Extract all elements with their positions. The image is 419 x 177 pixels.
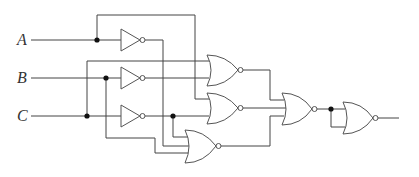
input-label-b: B [17, 69, 27, 86]
wire-nor1-to-nor4 [241, 70, 284, 100]
nor-gate-1 [207, 55, 243, 86]
input-label-a: A [16, 31, 27, 48]
nor-gate-3 [185, 130, 221, 163]
nor-gate-4 [282, 93, 317, 125]
junction-c [84, 113, 89, 118]
nor-gate-5 [343, 102, 378, 134]
input-label-c: C [17, 107, 28, 124]
not-gate-b [121, 67, 145, 89]
wire-c-to-nor1 [87, 61, 209, 116]
wire-nor3-to-nor4 [219, 116, 284, 146]
junction-nor4-out [328, 106, 333, 111]
wire-a-to-nor2 [97, 15, 209, 99]
wire-nor4-to-nor5-b [331, 109, 345, 127]
nor-gate-2 [207, 93, 243, 124]
logic-circuit-diagram: A B C [0, 0, 419, 177]
not-gate-a [121, 29, 145, 51]
junction-notc [170, 113, 175, 118]
junction-a [94, 37, 99, 42]
junction-b [103, 75, 108, 80]
not-gate-c [121, 105, 145, 127]
